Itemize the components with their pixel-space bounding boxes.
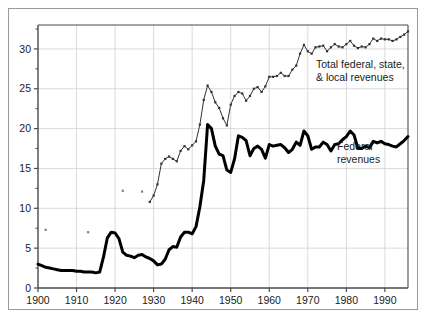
series-marker: [334, 43, 336, 45]
y-axis-tick-label: 5: [25, 242, 31, 254]
series-marker: [368, 43, 370, 45]
series-marker: [176, 160, 178, 162]
series-marker: [183, 145, 185, 147]
y-axis-tick-label: 0: [25, 282, 31, 294]
series-marker: [276, 75, 278, 77]
x-axis-tick-label: 1990: [373, 294, 397, 306]
series-marker: [241, 92, 243, 94]
series-marker: [361, 45, 363, 47]
series-marker: [168, 155, 170, 157]
series-marker: [357, 47, 359, 49]
x-axis-tick-label: 1940: [180, 294, 204, 306]
series-marker: [365, 46, 367, 48]
annotation-federal-revenues-line2: revenues: [337, 153, 380, 165]
series-marker: [180, 150, 182, 152]
series-marker: [264, 85, 266, 87]
series-marker: [287, 75, 289, 77]
series-marker: [395, 38, 397, 40]
series-marker: [284, 75, 286, 77]
series-marker: [214, 101, 216, 103]
series-marker: [384, 38, 386, 40]
series-marker: [311, 53, 313, 55]
series-marker: [268, 76, 270, 78]
series-marker: [45, 229, 47, 231]
annotation-total-revenues-line1: Total federal, state,: [316, 58, 405, 70]
y-axis-tick-label: 10: [19, 202, 31, 214]
series-marker: [218, 107, 220, 109]
series-marker: [222, 117, 224, 119]
x-axis-tick-label: 1960: [258, 294, 282, 306]
series-marker: [272, 76, 274, 78]
x-axis-tick-label: 1950: [219, 294, 243, 306]
series-marker: [156, 183, 158, 185]
series-marker: [407, 30, 409, 32]
series-marker: [372, 37, 374, 39]
series-marker: [338, 45, 340, 47]
series-marker: [318, 45, 320, 47]
x-axis-tick-label: 1910: [65, 294, 89, 306]
series-marker: [353, 45, 355, 47]
series-marker: [307, 50, 309, 52]
x-axis-tick-label: 1970: [296, 294, 320, 306]
series-marker: [322, 45, 324, 47]
series-marker: [199, 124, 201, 126]
series-marker: [303, 44, 305, 46]
series-marker: [237, 91, 239, 93]
series-marker: [164, 158, 166, 160]
y-axis-tick-label: 25: [19, 82, 31, 94]
series-marker: [330, 46, 332, 48]
series-marker: [149, 201, 151, 203]
series-marker: [226, 124, 228, 126]
y-axis-tick-label: 15: [19, 162, 31, 174]
series-marker: [260, 91, 262, 93]
series-marker: [391, 40, 393, 42]
series-marker: [203, 99, 205, 101]
series-marker: [245, 100, 247, 102]
x-axis-tick-label: 1980: [335, 294, 359, 306]
series-marker: [280, 72, 282, 74]
series-marker: [341, 46, 343, 48]
series-marker: [249, 95, 251, 97]
series-marker: [349, 40, 351, 42]
series-marker: [257, 86, 259, 88]
series-marker: [206, 84, 208, 86]
series-marker: [233, 95, 235, 97]
series-marker: [345, 43, 347, 45]
series-marker: [291, 69, 293, 71]
revenues-line-chart: 0510152025301900191019201930194019501960…: [0, 0, 428, 328]
x-axis-tick-label: 1920: [103, 294, 127, 306]
series-marker: [122, 190, 124, 192]
series-marker: [388, 38, 390, 40]
series-marker: [87, 231, 89, 233]
series-marker: [172, 158, 174, 160]
series-marker: [380, 37, 382, 39]
series-marker: [160, 163, 162, 165]
x-axis-tick-label: 1930: [142, 294, 166, 306]
series-marker: [399, 36, 401, 38]
series-marker: [187, 148, 189, 150]
y-axis-tick-label: 20: [19, 122, 31, 134]
series-marker: [253, 88, 255, 90]
series-marker: [403, 33, 405, 35]
series-marker: [326, 50, 328, 52]
series-marker: [191, 144, 193, 146]
y-axis-tick-label: 30: [19, 43, 31, 55]
series-marker: [153, 194, 155, 196]
series-marker: [195, 140, 197, 142]
series-marker: [230, 104, 232, 106]
series-marker: [295, 65, 297, 67]
series-marker: [299, 53, 301, 55]
x-axis-tick-label: 1900: [26, 294, 50, 306]
series-marker: [210, 91, 212, 93]
series-marker: [376, 40, 378, 42]
series-marker: [141, 190, 143, 192]
series-marker: [314, 46, 316, 48]
annotation-total-revenues-line2: & local revenues: [316, 71, 394, 83]
annotation-federal-revenues-line1: Federal: [337, 140, 373, 152]
chart-figure: 0510152025301900191019201930194019501960…: [0, 0, 428, 328]
